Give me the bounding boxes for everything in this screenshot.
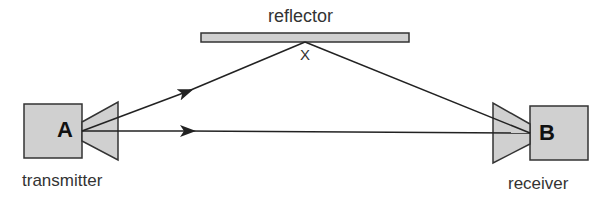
transmitter-box (24, 104, 82, 158)
reflected-path-up (186, 42, 305, 92)
transmitter-node-label: A (57, 117, 73, 143)
receiver-node-label: B (539, 120, 555, 146)
receiver-caption: receiver (508, 174, 568, 194)
reflector-bar (201, 33, 409, 42)
transmitter-caption: transmitter (22, 171, 102, 191)
direct-path-b (188, 131, 530, 133)
reflector-label: reflector (268, 6, 333, 27)
diagram-canvas (0, 0, 616, 200)
reflected-path-out (82, 92, 186, 131)
reflected-path-down (305, 42, 530, 133)
reflection-point-label: X (300, 46, 310, 63)
